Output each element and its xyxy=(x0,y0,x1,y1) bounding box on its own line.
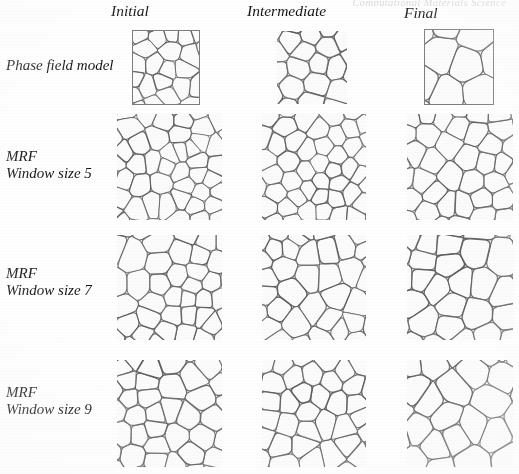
grain-cell xyxy=(144,421,167,438)
grain-structure-svg xyxy=(407,235,513,340)
micrograph-mrf9-intermediate xyxy=(262,360,366,467)
micrograph-phase-field-initial xyxy=(132,30,200,105)
grain-cell xyxy=(436,235,463,255)
row-label-line2: Window size 7 xyxy=(6,282,92,299)
column-header-initial: Initial xyxy=(111,2,149,20)
grain-structure-svg xyxy=(407,114,513,220)
micrograph-mrf5-initial xyxy=(117,114,222,220)
grain-cell xyxy=(195,289,212,308)
grain-cell xyxy=(175,324,196,340)
grain-cell xyxy=(181,306,196,325)
row-label-mrf-window-size-7: MRF Window size 7 xyxy=(6,265,92,299)
micrograph-mrf7-initial xyxy=(117,235,222,340)
figure-root: Computational Materials Science Initial … xyxy=(0,0,519,474)
grain-cell xyxy=(144,453,168,467)
micrograph-mrf9-initial xyxy=(117,360,222,467)
row-label-line1: MRF xyxy=(6,148,37,164)
grain-structure-svg xyxy=(262,360,366,467)
grain-structure-svg xyxy=(117,235,222,340)
micrograph-mrf7-final xyxy=(407,235,513,340)
grain-cell xyxy=(407,265,412,292)
grain-structure-svg xyxy=(425,30,493,104)
row-label-line2: Window size 5 xyxy=(6,165,92,182)
grain-structure-svg xyxy=(262,235,366,340)
column-header-final: Final xyxy=(404,4,438,22)
row-label-line2: Window size 9 xyxy=(6,401,92,418)
micrograph-phase-field-intermediate xyxy=(277,31,347,104)
grain-cell xyxy=(180,291,195,307)
grain-structure-svg xyxy=(407,360,513,467)
grain-structure-svg xyxy=(133,31,199,104)
row-label-mrf-window-size-9: MRF Window size 9 xyxy=(6,384,92,418)
micrograph-phase-field-final xyxy=(424,29,494,105)
column-header-intermediate: Intermediate xyxy=(247,2,326,20)
micrograph-mrf5-final xyxy=(407,114,513,220)
grain-cell xyxy=(467,114,489,123)
grain-cell xyxy=(316,203,332,220)
grain-structure-svg xyxy=(117,114,222,220)
grain-structure-svg xyxy=(117,360,222,467)
grain-cell xyxy=(262,392,281,412)
micrograph-mrf9-final xyxy=(407,360,513,467)
row-label-line1: Phase field model xyxy=(6,57,113,73)
grain-cell xyxy=(174,114,194,128)
grain-cell xyxy=(487,237,513,276)
grain-structure-svg xyxy=(262,114,366,220)
grain-cell xyxy=(460,239,490,269)
micrograph-mrf5-intermediate xyxy=(262,114,366,220)
grain-structure-svg xyxy=(277,31,347,104)
grain-cell xyxy=(407,360,421,377)
row-label-line1: MRF xyxy=(6,384,37,400)
row-label-mrf-window-size-5: MRF Window size 5 xyxy=(6,148,92,182)
row-label-phase-field-model: Phase field model xyxy=(6,57,113,74)
row-label-line1: MRF xyxy=(6,265,37,281)
micrograph-mrf7-intermediate xyxy=(262,235,366,340)
